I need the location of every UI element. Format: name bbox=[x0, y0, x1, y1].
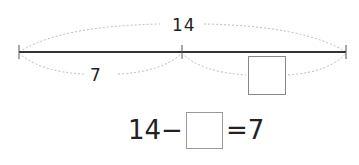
total-brace-right bbox=[204, 24, 346, 52]
unknown-part-box[interactable] bbox=[248, 56, 286, 95]
equation-result: 7 bbox=[248, 115, 265, 145]
total-brace bbox=[19, 24, 160, 52]
equation-operator: − bbox=[161, 115, 183, 145]
equation-left-operand: 14 bbox=[128, 115, 161, 145]
equation-equals: = bbox=[226, 115, 248, 145]
part-brace-left-a bbox=[19, 53, 84, 74]
known-part-label: 7 bbox=[90, 67, 101, 84]
part-brace-left-b bbox=[118, 53, 182, 74]
equation: 14 − = 7 bbox=[128, 111, 264, 149]
total-label: 14 bbox=[172, 17, 196, 34]
part-brace-right-b bbox=[288, 53, 346, 75]
equation-answer-box[interactable] bbox=[186, 112, 223, 149]
part-brace-right-a bbox=[182, 53, 246, 75]
